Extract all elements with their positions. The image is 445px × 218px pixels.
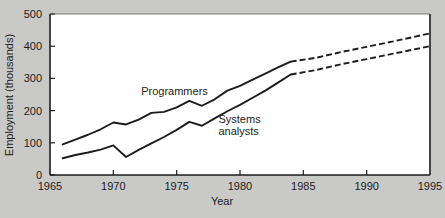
plot-area	[50, 14, 430, 175]
x-tick-label-1990: 1990	[354, 180, 378, 192]
y-tick-label-500: 500	[24, 8, 42, 20]
y-tick-label-100: 100	[24, 137, 42, 149]
y-tick-label-200: 200	[24, 105, 42, 117]
x-tick-label-1970: 1970	[101, 180, 125, 192]
series-label-programmers: Programmers	[141, 85, 208, 97]
y-tick-label-300: 300	[24, 72, 42, 84]
x-tick-label-1985: 1985	[291, 180, 315, 192]
series-label-systems-analysts-line2: analysts	[218, 125, 259, 137]
x-axis-title: Year	[211, 195, 234, 207]
y-tick-label-400: 400	[24, 40, 42, 52]
x-tick-label-1965: 1965	[38, 180, 62, 192]
x-tick-label-1975: 1975	[164, 180, 188, 192]
employment-line-chart: 0100200300400500 19651970197519801985199…	[0, 0, 445, 218]
x-tick-label-1995: 1995	[418, 180, 442, 192]
y-axis-title: Employment (thousands)	[3, 34, 15, 156]
x-tick-label-1980: 1980	[228, 180, 252, 192]
series-label-systems-analysts-line1: Systems	[218, 113, 261, 125]
chart-svg: 0100200300400500 19651970197519801985199…	[0, 0, 445, 218]
